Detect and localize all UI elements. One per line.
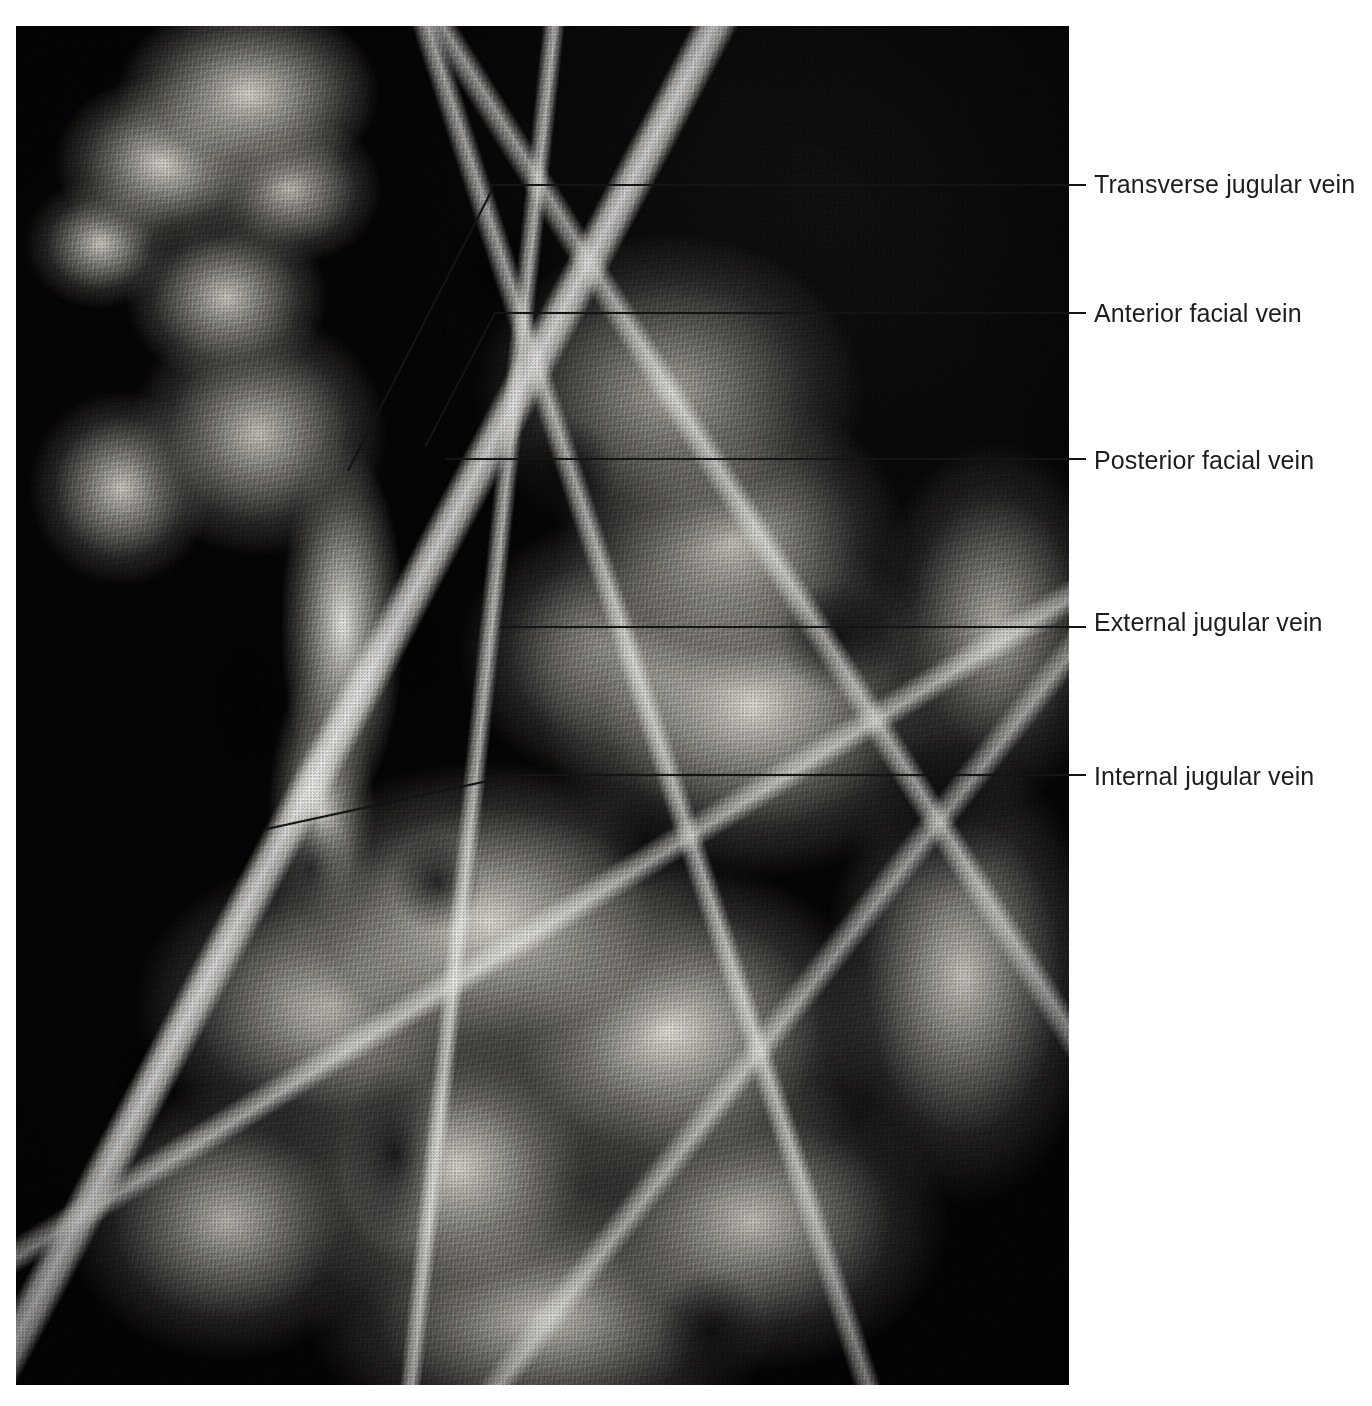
label-internal-jugular-vein: Internal jugular vein bbox=[1094, 764, 1314, 789]
label-posterior-facial-vein: Posterior facial vein bbox=[1094, 448, 1314, 473]
figure-plate: Transverse jugular vein Anterior facial … bbox=[0, 0, 1372, 1406]
photo-vignette bbox=[16, 26, 1069, 1385]
label-transverse-jugular-vein: Transverse jugular vein bbox=[1094, 172, 1355, 197]
dissection-photograph bbox=[16, 26, 1069, 1385]
label-external-jugular-vein: External jugular vein bbox=[1094, 610, 1323, 635]
label-anterior-facial-vein: Anterior facial vein bbox=[1094, 301, 1302, 326]
